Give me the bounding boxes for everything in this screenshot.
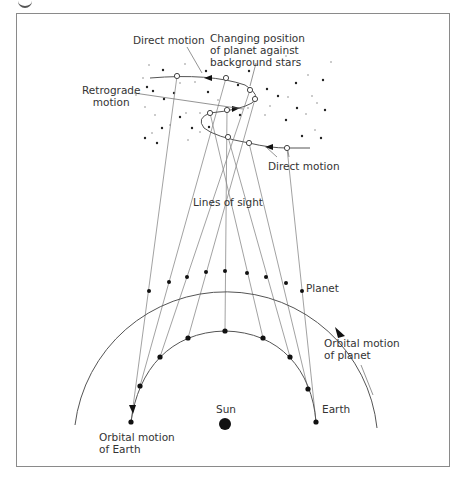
label-sun: Sun <box>216 403 236 415</box>
label-retrograde-motion: Retrograde motion <box>82 84 140 108</box>
background-stars <box>135 55 332 144</box>
sun-icon <box>219 418 231 430</box>
label-direct-motion-bottom: Direct motion <box>268 160 340 172</box>
earth-orbit-arrow-icon <box>129 405 136 414</box>
label-direct-motion-top: Direct motion <box>133 34 205 46</box>
label-orbital-motion-earth: Orbital motion of Earth <box>99 431 175 455</box>
label-planet: Planet <box>306 282 339 294</box>
label-earth: Earth <box>322 403 350 415</box>
label-changing-position: Changing position of planet against back… <box>210 32 305 68</box>
label-orbital-motion-planet: Orbital motion of planet <box>324 337 400 361</box>
direct-arrow-top-icon <box>204 75 212 81</box>
label-lines-of-sight: Lines of sight <box>193 196 263 208</box>
lines-of-sight <box>131 76 316 422</box>
retrograde-arrow-icon <box>232 106 240 112</box>
